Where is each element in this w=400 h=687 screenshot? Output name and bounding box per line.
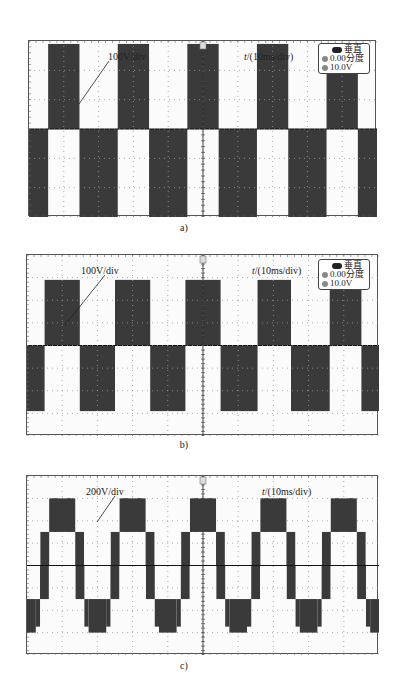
scope-screen-c (26, 475, 378, 654)
panel-c: 200V/div t/(10ms/div) c) (0, 0, 400, 687)
waveform-c (27, 476, 379, 655)
time-per-div-label: t/(10ms/div) (262, 486, 311, 497)
caption-c: c) (164, 660, 204, 671)
volts-per-div-label: 200V/div (86, 486, 124, 497)
